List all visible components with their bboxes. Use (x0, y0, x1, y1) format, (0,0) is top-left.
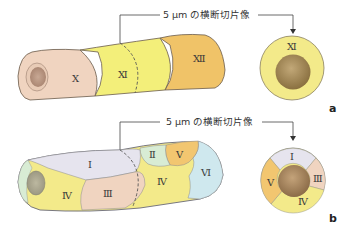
panel-b: 5 μm の横断切片像 Ⅰ Ⅱ Ⅲ Ⅳ Ⅳ Ⅴ Ⅵ (18, 116, 337, 225)
label-X: Ⅹ (72, 73, 80, 84)
panel-a: 5 μm の横断切片像 Ⅹ Ⅺ Ⅻ Ⅺ a (18, 9, 336, 115)
cross-label-III: Ⅲ (313, 173, 323, 184)
tube-b (18, 141, 223, 211)
label-I: Ⅰ (88, 159, 92, 170)
label-IV-right: Ⅳ (157, 176, 168, 187)
label-XI: Ⅺ (118, 69, 128, 80)
caption-a: 5 μm の横断切片像 (163, 9, 250, 20)
panel-label-a: a (329, 102, 336, 115)
panel-label-b: b (329, 212, 337, 225)
label-IV-left: Ⅳ (62, 190, 73, 201)
diagram-canvas: 5 μm の横断切片像 Ⅹ Ⅺ Ⅻ Ⅺ a (0, 0, 343, 231)
label-VI: Ⅵ (200, 167, 211, 178)
arrow-down-icon (290, 29, 296, 34)
label-XII: Ⅻ (193, 53, 206, 64)
tube-a (18, 34, 225, 100)
label-III: Ⅲ (103, 188, 113, 199)
cross-label-I: Ⅰ (290, 151, 294, 162)
cross-label-V: Ⅴ (266, 177, 275, 188)
label-II: Ⅱ (149, 149, 156, 160)
lumen-b (278, 165, 310, 197)
cross-label-IV: Ⅳ (298, 196, 309, 207)
tube-opening-a (30, 67, 46, 87)
cross-label-XI: Ⅺ (287, 41, 297, 52)
label-V: Ⅴ (175, 149, 184, 160)
lumen-a (276, 55, 311, 90)
arrow-down-icon (290, 136, 296, 141)
tube-opening-b (27, 171, 45, 195)
caption-b: 5 μm の横断切片像 (166, 116, 253, 127)
